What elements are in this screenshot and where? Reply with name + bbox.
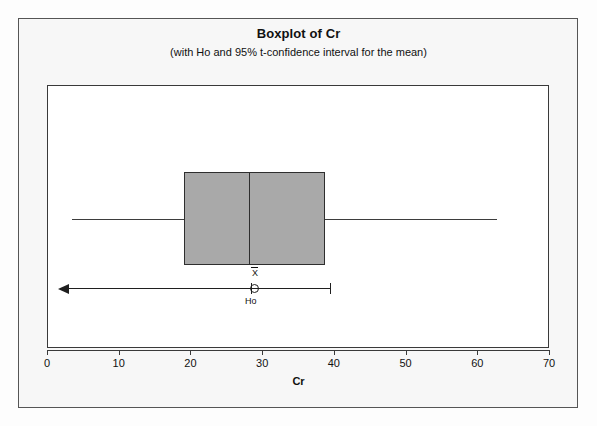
x-axis-tick-label: 70 <box>534 357 564 369</box>
mean-symbol-label: X <box>243 267 267 278</box>
boxplot-figure: Boxplot of Cr (with Ho and 95% t-confide… <box>0 0 597 426</box>
x-axis-tick <box>262 350 263 355</box>
plot-area: X Ho <box>47 85 549 348</box>
confidence-interval-line <box>69 288 330 289</box>
x-axis-tick <box>334 350 335 355</box>
x-axis-tick-label: 0 <box>32 357 62 369</box>
mean-marker-icon <box>250 284 259 293</box>
x-axis-title: Cr <box>0 375 597 387</box>
x-axis-tick <box>119 350 120 355</box>
x-axis-tick-label: 40 <box>319 357 349 369</box>
box-rect <box>184 172 325 265</box>
mean-symbol-text: X <box>252 268 258 278</box>
x-axis-tick <box>549 350 550 355</box>
x-axis-tick <box>477 350 478 355</box>
confidence-interval-arrow-icon <box>58 284 69 294</box>
x-axis-tick-label: 10 <box>104 357 134 369</box>
x-axis-tick <box>406 350 407 355</box>
x-axis-tick-label: 60 <box>462 357 492 369</box>
x-axis-tick <box>190 350 191 355</box>
x-axis-tick-label: 30 <box>247 357 277 369</box>
x-axis-tick <box>47 350 48 355</box>
confidence-interval-upper-cap <box>330 283 331 294</box>
x-axis-tick-label: 50 <box>391 357 421 369</box>
x-axis-line <box>47 350 549 351</box>
ho-label: Ho <box>239 296 263 306</box>
x-axis-tick-label: 20 <box>175 357 205 369</box>
median-line <box>249 172 250 265</box>
